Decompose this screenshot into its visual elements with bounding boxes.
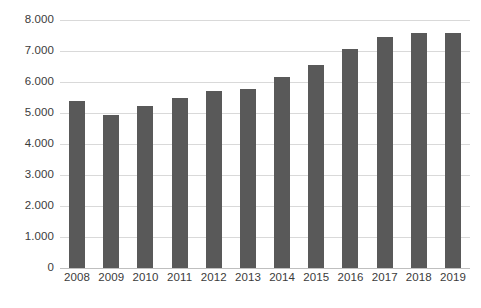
bar-slot: [265, 20, 299, 268]
bar-slot: [333, 20, 367, 268]
x-tick-label: 2016: [333, 272, 367, 284]
bar[interactable]: [342, 49, 358, 268]
x-tick-label: 2018: [402, 272, 436, 284]
y-tick-label: 3.000: [0, 169, 54, 181]
x-tick-label: 2009: [94, 272, 128, 284]
bar[interactable]: [69, 101, 85, 268]
bar[interactable]: [103, 115, 119, 268]
bar[interactable]: [411, 33, 427, 268]
x-tick-label: 2015: [299, 272, 333, 284]
x-tick-label: 2017: [368, 272, 402, 284]
y-tick-label: 5.000: [0, 107, 54, 119]
bars-layer: [60, 20, 470, 268]
y-tick-label: 1.000: [0, 231, 54, 243]
bar[interactable]: [206, 91, 222, 268]
bar-slot: [94, 20, 128, 268]
x-axis: 2008200920102011201220132014201520162017…: [60, 272, 470, 284]
x-tick-label: 2011: [163, 272, 197, 284]
bar[interactable]: [445, 33, 461, 268]
x-tick-label: 2010: [128, 272, 162, 284]
bar[interactable]: [308, 65, 324, 268]
x-tick-label: 2019: [436, 272, 470, 284]
y-tick-label: 0: [0, 262, 54, 274]
gridline: [60, 268, 470, 269]
x-tick-label: 2014: [265, 272, 299, 284]
x-tick-label: 2013: [231, 272, 265, 284]
bar[interactable]: [172, 98, 188, 268]
y-tick-label: 7.000: [0, 45, 54, 57]
bar-slot: [60, 20, 94, 268]
y-tick-label: 4.000: [0, 138, 54, 150]
y-tick-label: 8.000: [0, 14, 54, 26]
y-tick-label: 6.000: [0, 76, 54, 88]
y-tick-label: 2.000: [0, 200, 54, 212]
x-tick-label: 2008: [60, 272, 94, 284]
bar[interactable]: [274, 77, 290, 268]
bar-slot: [231, 20, 265, 268]
bar-slot: [402, 20, 436, 268]
bar-slot: [368, 20, 402, 268]
y-axis: 01.0002.0003.0004.0005.0006.0007.0008.00…: [0, 0, 54, 308]
x-tick-label: 2012: [197, 272, 231, 284]
bar-slot: [163, 20, 197, 268]
bar[interactable]: [137, 106, 153, 268]
bar-slot: [128, 20, 162, 268]
bar[interactable]: [377, 37, 393, 268]
bar-slot: [436, 20, 470, 268]
bar-slot: [197, 20, 231, 268]
bar[interactable]: [240, 89, 256, 268]
plot-area: [60, 20, 470, 268]
bar-chart: 01.0002.0003.0004.0005.0006.0007.0008.00…: [0, 0, 481, 308]
bar-slot: [299, 20, 333, 268]
